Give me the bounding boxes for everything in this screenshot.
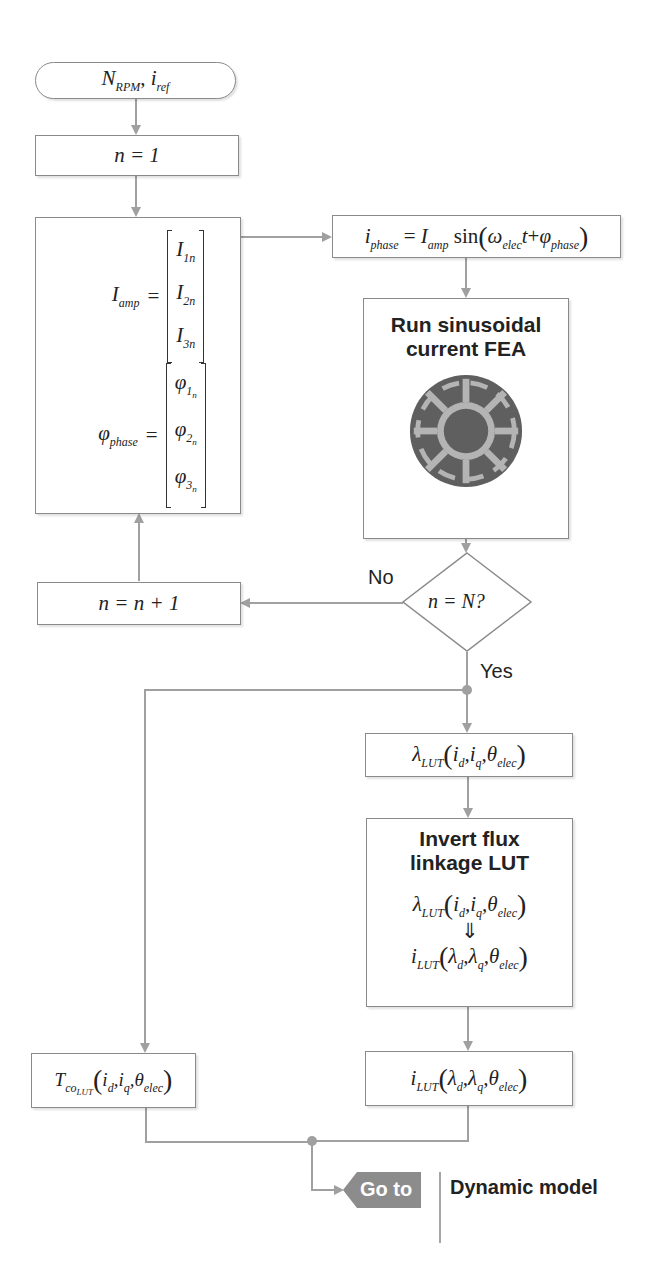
flux-lut-box: λLUT(id,iq,θelec): [365, 733, 573, 777]
junction-dot: [462, 685, 472, 695]
yes-label: Yes: [480, 660, 513, 683]
torque-lut-box: TcoLUT(id,iq,θelec): [31, 1053, 196, 1108]
start-terminal: NRPM, iref: [35, 62, 236, 99]
iamp-equation: Iamp = I1n I2n I3n: [112, 230, 205, 363]
motor-cross-section-image: [408, 373, 524, 489]
current-lut-box: iLUT(λd,λq,θelec): [365, 1051, 573, 1106]
init-box: n = 1: [35, 135, 239, 176]
goto-label[interactable]: Go to: [360, 1178, 412, 1201]
init-label: n = 1: [114, 143, 160, 168]
torque-lut-label: TcoLUT(id,iq,θelec): [55, 1064, 173, 1097]
fea-title: Run sinusoidal current FEA: [391, 313, 542, 361]
flux-lut-label: λLUT(id,iq,θelec): [412, 739, 526, 771]
increment-label: n = n + 1: [99, 591, 180, 616]
invert-lut-box: Invert flux linkage LUT λLUT(id,iq,θelec…: [366, 818, 573, 1007]
invert-title: Invert flux linkage LUT: [410, 827, 529, 875]
phase-current-equation: iphase = Iamp sin(ωelect+φphase): [365, 221, 589, 253]
start-label: NRPM, iref: [102, 66, 170, 95]
no-label: No: [368, 566, 394, 589]
amplitude-phase-box: Iamp = I1n I2n I3n φphase = φ1n φ2n φ3n: [35, 217, 241, 514]
invert-from-equation: λLUT(id,iq,θelec): [413, 889, 527, 921]
fea-box: Run sinusoidal current FEA: [363, 298, 569, 539]
phi-equation: φphase = φ1n φ2n φ3n: [98, 363, 206, 508]
junction-dot: [307, 1136, 317, 1146]
current-lut-label: iLUT(λd,λq,θelec): [411, 1063, 528, 1095]
invert-to-equation: iLUT(λd,λq,θelec): [411, 941, 528, 973]
implies-arrow-icon: ⇓: [461, 921, 479, 941]
phase-current-box: iphase = Iamp sin(ωelect+φphase): [332, 215, 621, 258]
goto-target-label: Dynamic model: [450, 1176, 598, 1199]
decision-label: n = N?: [428, 590, 485, 613]
increment-box: n = n + 1: [37, 582, 241, 625]
